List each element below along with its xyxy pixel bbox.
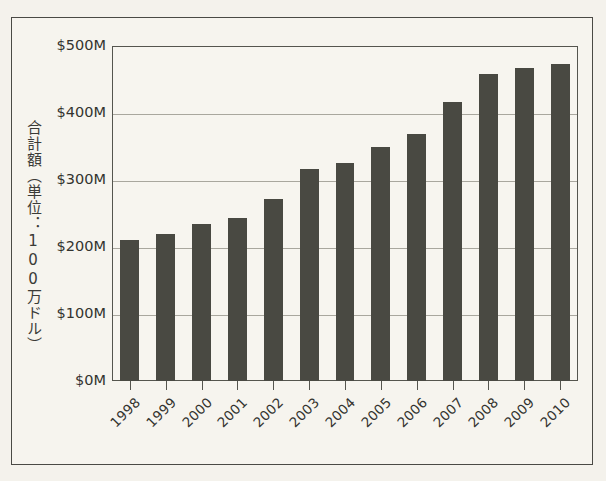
x-axis-tick — [309, 381, 310, 390]
x-axis-tick-label: 2001 — [214, 394, 251, 431]
x-axis-tick — [166, 381, 167, 390]
x-axis-tick — [453, 381, 454, 390]
bar — [156, 234, 175, 381]
bars-layer — [112, 46, 578, 381]
x-axis-tick-label: 2000 — [178, 394, 215, 431]
x-axis-tick — [381, 381, 382, 390]
x-axis-tick — [345, 381, 346, 390]
bar — [264, 199, 283, 381]
x-axis-tick — [417, 381, 418, 390]
bar — [228, 218, 247, 381]
y-axis-tick-label: $100M — [40, 305, 106, 321]
bar — [479, 74, 498, 381]
x-axis-tick-label: 2006 — [393, 394, 430, 431]
y-axis-tick-label: $400M — [40, 104, 106, 120]
x-axis-tick-label: 1998 — [106, 394, 143, 431]
x-axis-ticks-and-labels: 1998199920002001200220032004200520062007… — [112, 381, 578, 481]
cut-off-text-top — [380, 0, 580, 9]
bar — [371, 147, 390, 382]
y-axis-tick-label: $500M — [40, 37, 106, 53]
bar — [551, 64, 570, 381]
cut-off-text-bottom — [16, 470, 276, 481]
bar — [515, 68, 534, 381]
bar — [407, 134, 426, 381]
bar — [120, 240, 139, 381]
bar — [192, 224, 211, 381]
x-axis-tick-label: 2002 — [250, 394, 287, 431]
x-axis-tick — [560, 381, 561, 390]
x-axis-tick — [488, 381, 489, 390]
y-axis-tick-label: $300M — [40, 171, 106, 187]
x-axis-tick-label: 2007 — [429, 394, 466, 431]
x-axis-tick-label: 2003 — [286, 394, 323, 431]
chart-page: 合計額（単位：100万ドル） $0M$100M$200M$300M$400M$5… — [0, 0, 606, 481]
x-axis-tick-label: 1999 — [142, 394, 179, 431]
x-axis-tick-label: 2008 — [465, 394, 502, 431]
x-axis-tick — [202, 381, 203, 390]
y-axis-tick-label: $0M — [40, 372, 106, 388]
x-axis-tick — [237, 381, 238, 390]
x-axis-tick — [130, 381, 131, 390]
x-axis-tick-label: 2004 — [322, 394, 359, 431]
x-axis-tick-label: 2005 — [357, 394, 394, 431]
bar — [300, 169, 319, 381]
y-axis-tick-labels: $0M$100M$200M$300M$400M$500M — [38, 0, 106, 481]
x-axis-tick-label: 2010 — [537, 394, 574, 431]
bar — [443, 102, 462, 381]
x-axis-tick — [524, 381, 525, 390]
bar — [336, 163, 355, 381]
x-axis-tick — [273, 381, 274, 390]
y-axis-tick-label: $200M — [40, 238, 106, 254]
x-axis-tick-label: 2009 — [501, 394, 538, 431]
